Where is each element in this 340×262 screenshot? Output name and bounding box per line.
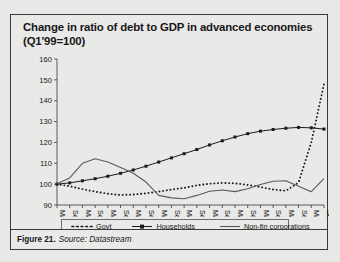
y-axis-tick-label: 150 — [39, 76, 52, 85]
y-axis-tick-label: 120 — [39, 138, 52, 147]
x-axis-tick-label: Mar-09 — [312, 210, 321, 217]
x-axis-tick-label: Mar-03 — [160, 210, 169, 217]
x-axis-tick-label: Sep-08 — [300, 210, 309, 217]
x-axis-tick-label: Sep-04 — [198, 210, 207, 217]
chart-title-line2: (Q1'99=100) — [23, 35, 85, 47]
x-axis-tick-label: Mar-08 — [287, 210, 296, 217]
x-axis-tick-label: Sep-01 — [122, 210, 131, 217]
x-axis-tick-label: Mar-07 — [262, 210, 271, 217]
x-axis-tick-label: Mar-06 — [236, 210, 245, 217]
x-axis-tick-label: Sep-99 — [71, 210, 80, 217]
y-axis-tick-label: 100 — [39, 180, 52, 189]
figure-caption: Figure 21. Source: Datastream — [11, 229, 327, 249]
x-axis-tick-label: Mar-02 — [134, 210, 143, 217]
x-axis-tick-label: Mar-01 — [109, 210, 118, 217]
x-axis-tick-label: Sep-02 — [147, 210, 156, 217]
x-axis-tick-label: Sep-03 — [173, 210, 182, 217]
x-axis-tick-label: Sep-06 — [249, 210, 258, 217]
caption-source: Source: Datastream — [59, 235, 132, 244]
figure-panel: Change in ratio of debt to GDP in advanc… — [10, 14, 328, 250]
chart-title-line1: Change in ratio of debt to GDP in advanc… — [23, 21, 312, 33]
y-axis-tick-label: 90 — [44, 201, 52, 210]
x-axis-tick-label: Sep-09 — [325, 210, 329, 217]
y-axis-tick-label: 140 — [39, 96, 52, 105]
chart-title: Change in ratio of debt to GDP in advanc… — [23, 21, 319, 48]
x-axis-tick-label: Mar-99 — [58, 210, 67, 217]
caption-figure-number: Figure 21. — [17, 235, 56, 244]
y-axis-tick-label: 130 — [39, 117, 52, 126]
x-axis-tick-label: Sep-07 — [274, 210, 283, 217]
line-chart: 90100110120130140150160Mar-99Sep-99Mar-0… — [11, 49, 329, 217]
x-axis-tick-label: Sep-05 — [223, 210, 232, 217]
series-households — [56, 126, 326, 186]
x-axis-tick-label: Mar-04 — [185, 210, 194, 217]
x-axis-tick-label: Sep-00 — [96, 210, 105, 217]
y-axis-tick-label: 160 — [39, 55, 52, 64]
x-axis-tick-label: Mar-00 — [84, 210, 93, 217]
plot-area: 90100110120130140150160Mar-99Sep-99Mar-0… — [11, 49, 329, 217]
y-axis-tick-label: 110 — [40, 159, 52, 168]
x-axis-tick-label: Mar-05 — [211, 210, 220, 217]
